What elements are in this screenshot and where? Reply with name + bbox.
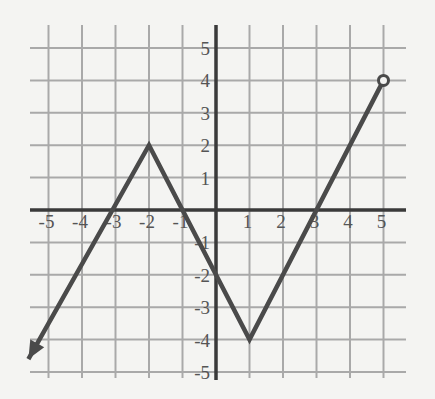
x-tick-label: -2 — [139, 211, 155, 232]
x-tick-label: -4 — [72, 211, 88, 232]
function-graph: -5-4-3-2-112345 54321-1-2-3-4-5 — [0, 0, 435, 399]
x-tick-label: -5 — [39, 211, 55, 232]
x-tick-label: 1 — [243, 211, 253, 232]
x-tick-label: 4 — [343, 211, 353, 232]
y-tick-label: 4 — [201, 70, 211, 91]
y-tick-label: 5 — [201, 38, 211, 59]
y-tick-label: 3 — [201, 103, 211, 124]
y-tick-label: -2 — [194, 265, 210, 286]
y-tick-label: 1 — [201, 168, 211, 189]
x-tick-label: 2 — [276, 211, 286, 232]
grid-lines — [30, 25, 406, 378]
x-tick-labels: -5-4-3-2-112345 — [39, 211, 387, 232]
y-tick-label: -4 — [194, 330, 210, 351]
open-circle-endpoint-icon — [379, 75, 389, 85]
y-tick-label: 2 — [201, 135, 211, 156]
y-tick-label: -3 — [194, 297, 210, 318]
x-tick-label: 5 — [377, 211, 387, 232]
y-tick-label: -5 — [194, 362, 210, 383]
